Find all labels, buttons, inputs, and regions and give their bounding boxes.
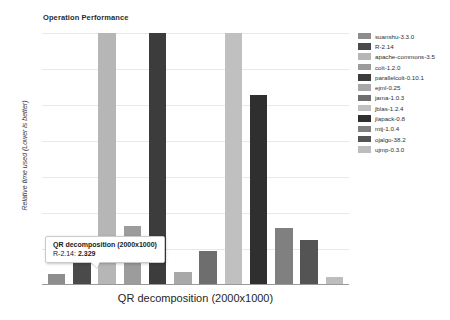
legend-label: colt-1.2.0 <box>375 64 400 71</box>
legend-item-jblas-1.2.4[interactable]: jblas-1.2.4 <box>358 103 450 113</box>
legend-swatch-icon <box>358 146 371 153</box>
legend-swatch-icon <box>358 105 371 112</box>
legend-item-parallelcolt-0.10.1[interactable]: parallelcolt-0.10.1 <box>358 72 450 82</box>
legend-swatch-icon <box>358 43 371 50</box>
legend-item-jlapack-0.8[interactable]: jlapack-0.8 <box>358 113 450 123</box>
legend-swatch-icon <box>358 126 371 133</box>
legend-swatch-icon <box>358 64 371 71</box>
legend-label: jlapack-0.8 <box>375 115 405 122</box>
legend-swatch-icon <box>358 53 371 60</box>
legend-swatch-icon <box>358 136 371 143</box>
legend-label: R-2.14 <box>375 43 394 50</box>
legend-swatch-icon <box>358 95 371 102</box>
y-axis-label: Relative time used (Lower is better) <box>21 66 28 246</box>
legend-item-suanshu-3.3.0[interactable]: suanshu-3.3.0 <box>358 31 450 41</box>
legend-label: mtj-1.0.4 <box>375 125 399 132</box>
legend-item-jama-1.0.3[interactable]: jama-1.0.3 <box>358 93 450 103</box>
data-tooltip: QR decomposition (2000x1000) R-2.14: 2.3… <box>45 236 165 263</box>
bar-slot <box>221 33 246 285</box>
legend: suanshu-3.3.0R-2.14apache-commons-3.5col… <box>358 31 450 155</box>
legend-item-ujmp-0.3.0[interactable]: ujmp-0.3.0 <box>358 144 450 154</box>
legend-swatch-icon <box>358 84 371 91</box>
legend-label: apache-commons-3.5 <box>375 53 435 60</box>
bar-slot <box>170 33 195 285</box>
legend-item-apache-commons-3.5[interactable]: apache-commons-3.5 <box>358 52 450 62</box>
legend-swatch-icon <box>358 74 371 81</box>
bar-ojalgo-38.2[interactable] <box>300 240 318 285</box>
legend-item-R-2.14[interactable]: R-2.14 <box>358 41 450 51</box>
legend-label: ojalgo-38.2 <box>375 136 406 143</box>
legend-swatch-icon <box>358 115 371 122</box>
x-axis-line <box>42 284 349 286</box>
tooltip-pointer-icon <box>90 261 100 268</box>
legend-label: jama-1.0.3 <box>375 94 404 101</box>
tooltip-title: QR decomposition (2000x1000) <box>53 241 157 248</box>
legend-item-colt-1.2.0[interactable]: colt-1.2.0 <box>358 62 450 72</box>
tooltip-value: 2.329 <box>78 250 96 257</box>
x-axis-title: QR decomposition (2000x1000) <box>42 292 349 304</box>
legend-label: suanshu-3.3.0 <box>375 33 414 40</box>
bar-mtj-1.0.4[interactable] <box>275 228 293 285</box>
bar-slot <box>271 33 296 285</box>
bar-slot <box>297 33 322 285</box>
legend-item-ojalgo-38.2[interactable]: ojalgo-38.2 <box>358 134 450 144</box>
legend-item-mtj-1.0.4[interactable]: mtj-1.0.4 <box>358 124 450 134</box>
legend-label: parallelcolt-0.10.1 <box>375 74 424 81</box>
bar-jlapack-0.8[interactable] <box>250 95 268 285</box>
chart-title: Operation Performance <box>43 13 128 22</box>
bar-jblas-1.2.4[interactable] <box>225 33 243 285</box>
bar-slot <box>246 33 271 285</box>
bar-slot <box>196 33 221 285</box>
bar-jama-1.0.3[interactable] <box>199 251 217 285</box>
tooltip-series-label: R-2.14: <box>53 250 76 257</box>
legend-item-ejml-0.25[interactable]: ejml-0.25 <box>358 82 450 92</box>
legend-label: ejml-0.25 <box>375 84 400 91</box>
legend-label: jblas-1.2.4 <box>375 105 404 112</box>
bar-slot <box>322 33 347 285</box>
legend-swatch-icon <box>358 33 371 40</box>
tooltip-row: R-2.14: 2.329 <box>53 250 157 257</box>
legend-label: ujmp-0.3.0 <box>375 146 404 153</box>
